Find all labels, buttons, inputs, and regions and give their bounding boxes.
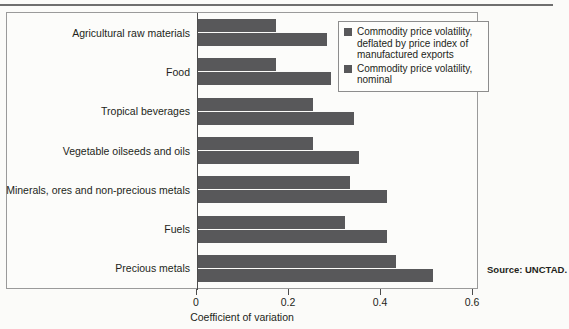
chart-plot-frame: Agricultural raw materialsFoodTropical b… — [6, 12, 478, 289]
legend-swatch-nominal-icon — [344, 65, 352, 73]
bar-nominal — [198, 151, 359, 164]
category-label: Tropical beverages — [101, 105, 190, 117]
bar-deflated — [198, 176, 350, 189]
x-tick — [472, 289, 473, 295]
bar-nominal — [198, 33, 327, 46]
source-note: Source: UNCTAD. — [487, 264, 567, 275]
bar-deflated — [198, 58, 276, 71]
x-axis-title: Coefficient of variation — [6, 311, 478, 323]
legend-label-nominal: Commodity price volatility, nominal — [357, 63, 483, 86]
category-label: Food — [166, 66, 190, 78]
x-tick-label: 0.4 — [373, 296, 388, 308]
bar-deflated — [198, 137, 313, 150]
bar-deflated — [198, 255, 396, 268]
x-tick — [380, 289, 381, 295]
x-tick-label: 0.2 — [281, 296, 296, 308]
x-tick-label: 0 — [193, 296, 199, 308]
chart-legend: Commodity price volatility, deflated by … — [338, 21, 489, 92]
category-label: Fuels — [164, 223, 190, 235]
bar-deflated — [198, 19, 276, 32]
legend-item-deflated: Commodity price volatility, deflated by … — [344, 26, 483, 61]
bar-deflated — [198, 98, 313, 111]
x-tick — [196, 289, 197, 295]
bar-nominal — [198, 230, 387, 243]
legend-item-nominal: Commodity price volatility, nominal — [344, 63, 483, 86]
bar-nominal — [198, 190, 387, 203]
legend-label-deflated: Commodity price volatility, deflated by … — [357, 26, 483, 61]
category-label: Agricultural raw materials — [72, 27, 190, 39]
category-label: Vegetable oilseeds and oils — [63, 145, 190, 157]
legend-swatch-deflated-icon — [344, 28, 352, 36]
bar-nominal — [198, 269, 433, 282]
top-divider-rule — [0, 4, 553, 6]
bar-deflated — [198, 216, 345, 229]
x-tick — [288, 289, 289, 295]
category-label: Precious metals — [115, 262, 190, 274]
x-axis-tick-labels: 00.20.40.6 — [6, 296, 478, 310]
category-label: Minerals, ores and non-precious metals — [6, 184, 190, 196]
bar-nominal — [198, 72, 331, 85]
bar-nominal — [198, 112, 354, 125]
x-tick-label: 0.6 — [465, 296, 480, 308]
